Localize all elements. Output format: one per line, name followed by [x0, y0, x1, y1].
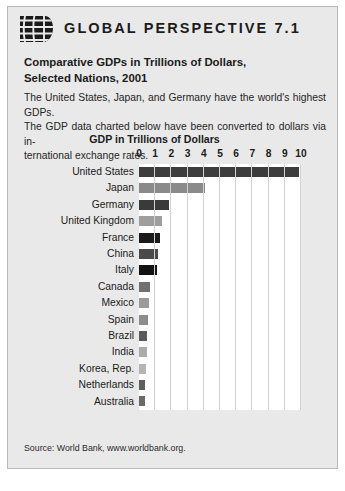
subtitle-line-2: Selected Nations, 2001 — [24, 71, 324, 87]
global-perspective-panel: GLOBAL PERSPECTIVE 7.1 Comparative GDPs … — [7, 6, 338, 469]
gridline-4 — [203, 164, 204, 410]
bar-row — [139, 164, 301, 180]
bar-row — [139, 377, 301, 393]
bar-rows — [139, 164, 301, 410]
bar-row — [139, 295, 301, 311]
category-label: Mexico — [101, 295, 134, 311]
plot-area — [139, 164, 301, 410]
bar-row — [139, 279, 301, 295]
subtitle-line-1: Comparative GDPs in Trillions of Dollars… — [24, 55, 324, 71]
panel-title: GLOBAL PERSPECTIVE 7.1 — [64, 20, 301, 36]
source-note: Source: World Bank, www.worldbank.org. — [24, 443, 186, 453]
category-label: India — [112, 344, 134, 360]
bar — [139, 298, 149, 308]
category-label: United States — [72, 164, 134, 180]
category-label: Italy — [115, 262, 134, 278]
chart-axis-title: GDP in Trillions of Dollars — [8, 133, 301, 145]
gridline-9 — [284, 164, 285, 410]
bar — [139, 249, 158, 259]
category-label: China — [107, 246, 134, 262]
bar — [139, 233, 160, 243]
x-tick-3: 3 — [185, 148, 191, 159]
x-tick-7: 7 — [250, 148, 256, 159]
category-labels: United StatesJapanGermanyUnited KingdomF… — [8, 164, 134, 410]
x-tick-8: 8 — [266, 148, 272, 159]
x-tick-2: 2 — [169, 148, 175, 159]
bar — [139, 364, 146, 374]
x-tick-1: 1 — [152, 148, 158, 159]
globe-icon — [17, 14, 55, 44]
category-label: Germany — [92, 197, 134, 213]
gridline-7 — [251, 164, 252, 410]
gridline-5 — [219, 164, 220, 410]
category-label: United Kingdom — [61, 213, 134, 229]
category-label: Australia — [94, 394, 134, 410]
category-label: Netherlands — [78, 377, 134, 393]
x-tick-5: 5 — [217, 148, 223, 159]
bar-row — [139, 361, 301, 377]
bar-row — [139, 344, 301, 360]
bar-row — [139, 328, 301, 344]
gridline-8 — [268, 164, 269, 410]
category-label: Canada — [98, 279, 134, 295]
bar — [139, 183, 205, 193]
bar — [139, 380, 145, 390]
bar-row — [139, 230, 301, 246]
x-tick-6: 6 — [233, 148, 239, 159]
category-label: Japan — [106, 180, 134, 196]
category-label: Brazil — [108, 328, 134, 344]
category-label: France — [102, 230, 134, 246]
gridline-2 — [170, 164, 171, 410]
chart-subtitle: Comparative GDPs in Trillions of Dollars… — [24, 55, 324, 86]
bar — [139, 216, 162, 226]
bar-row — [139, 197, 301, 213]
bar-row — [139, 246, 301, 262]
description-line-1: The United States, Japan, and Germany ha… — [24, 91, 326, 120]
bar-row — [139, 262, 301, 278]
panel-header: GLOBAL PERSPECTIVE 7.1 — [8, 7, 337, 49]
bar — [139, 282, 150, 292]
gridline-10 — [300, 164, 301, 410]
bar-row — [139, 312, 301, 328]
gridline-6 — [235, 164, 236, 410]
gridline-3 — [187, 164, 188, 410]
bar — [139, 315, 148, 325]
x-tick-0: 0 — [136, 148, 142, 159]
x-axis-tick-labels: 012345678910 — [139, 148, 301, 161]
bar-row — [139, 213, 301, 229]
category-label: Korea, Rep. — [79, 361, 134, 377]
bar — [139, 347, 147, 357]
bar-row — [139, 393, 301, 409]
gridline-1 — [154, 164, 155, 410]
x-tick-4: 4 — [201, 148, 207, 159]
x-tick-9: 9 — [282, 148, 288, 159]
x-tick-10: 10 — [295, 148, 306, 159]
bar-row — [139, 180, 301, 196]
category-label: Spain — [108, 312, 134, 328]
bar — [139, 396, 145, 406]
bar — [139, 331, 147, 341]
gdp-bar-chart: GDP in Trillions of Dollars 012345678910… — [8, 133, 339, 438]
